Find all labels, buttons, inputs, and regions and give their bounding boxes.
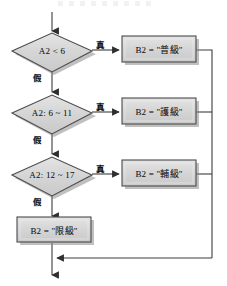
process-node-1 <box>122 36 199 65</box>
decision-node-1 <box>12 33 96 75</box>
decision-node-3 <box>12 157 96 199</box>
decision-node-2 <box>12 95 96 137</box>
flowchart-canvas <box>0 0 227 286</box>
process-node-2 <box>122 98 199 127</box>
process-node-4 <box>17 217 94 245</box>
flowchart-diagram: A2 < 6 A2: 6 ~ 11 A2: 12 ~ 17 B2 = "普級" … <box>0 0 227 286</box>
return-path-1 <box>196 50 212 258</box>
process-node-3 <box>122 160 199 189</box>
